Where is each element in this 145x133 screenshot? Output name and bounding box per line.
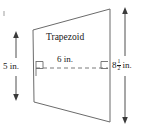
right-angle-square-right [101, 62, 108, 69]
right-height-unit: in. [122, 61, 131, 70]
midsegment-length-label: 6 in. [57, 55, 73, 64]
fraction-denominator: 2 [117, 66, 121, 72]
right-angle-square-left [36, 62, 43, 69]
trapezoid-shape [33, 9, 110, 122]
geometry-figure: Trapezoid 6 in. 5 in. 8 1 2 in. [0, 0, 145, 133]
right-angle-marker-left [36, 61, 43, 76]
right-height-label: 8 1 2 in. [112, 59, 132, 71]
right-angle-marker-right [101, 62, 108, 69]
left-height-label: 5 in. [3, 62, 19, 71]
right-arrow-head-up [122, 7, 128, 14]
corner-artifact [3, 11, 5, 16]
right-arrow-head-down [122, 117, 128, 124]
left-arrow-head-up [13, 31, 19, 38]
right-height-fraction: 1 2 [117, 59, 121, 71]
right-height-whole-number: 8 [112, 61, 117, 70]
trapezoid-outline [33, 9, 110, 122]
shape-name-label: Trapezoid [46, 33, 84, 43]
left-arrow-head-down [13, 94, 19, 101]
